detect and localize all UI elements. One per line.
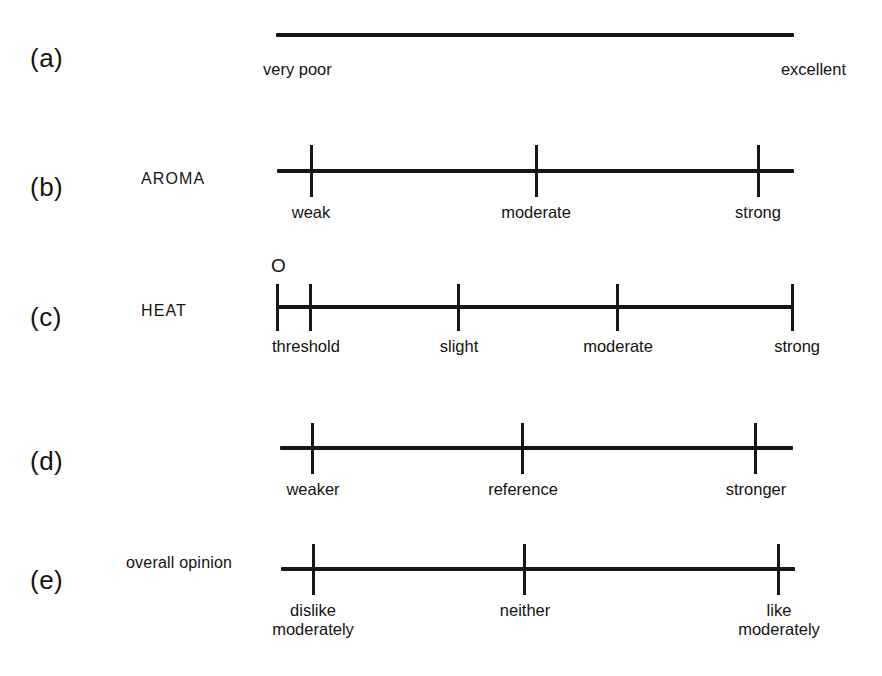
- anchor-d-reference: reference: [488, 480, 558, 499]
- anchor-d-stronger: stronger: [726, 480, 787, 499]
- anchor-b-weak: weak: [292, 203, 331, 222]
- marker-o-icon: O: [271, 256, 286, 275]
- anchor-e-like-line1: like: [767, 601, 792, 619]
- anchor-e-dislike-moderately: dislike moderately: [272, 601, 354, 639]
- anchor-e-neither: neither: [500, 601, 550, 620]
- tick-c-strong: [791, 284, 794, 331]
- tick-b-weak: [310, 145, 313, 197]
- scale-row-a: (a) very poor excellent: [0, 0, 882, 110]
- attribute-label-heat: HEAT: [141, 302, 187, 320]
- anchor-c-slight: slight: [440, 337, 479, 356]
- anchor-e-like-moderately: like moderately: [738, 601, 820, 639]
- anchor-a-excellent: excellent: [781, 60, 846, 79]
- attribute-label-overall-opinion: overall opinion: [126, 554, 232, 572]
- panel-letter-c: (c): [30, 302, 62, 333]
- scale-line-c: [277, 305, 793, 309]
- anchor-b-strong: strong: [735, 203, 781, 222]
- panel-letter-b: (b): [30, 172, 63, 203]
- tick-d-weaker: [311, 423, 314, 474]
- scale-row-d: (d) weaker reference stronger: [0, 390, 882, 510]
- tick-e-like-moderately: [777, 544, 780, 595]
- tick-e-dislike-moderately: [312, 544, 315, 595]
- tick-e-neither: [523, 544, 526, 595]
- tick-c-moderate: [616, 284, 619, 331]
- tick-c-endpoint-left: [276, 284, 279, 331]
- anchor-c-moderate: moderate: [583, 337, 653, 356]
- anchor-c-threshold: threshold: [272, 337, 340, 356]
- anchor-e-like-line2: moderately: [738, 620, 820, 639]
- tick-d-reference: [521, 423, 524, 474]
- tick-b-strong: [757, 145, 760, 197]
- anchor-d-weaker: weaker: [286, 480, 339, 499]
- tick-c-threshold: [309, 284, 312, 331]
- scale-line-a: [276, 33, 794, 37]
- scale-row-c: (c) HEAT O threshold slight moderate str…: [0, 240, 882, 390]
- tick-b-moderate: [535, 145, 538, 197]
- scale-figure: (a) very poor excellent (b) AROMA weak m…: [0, 0, 882, 676]
- anchor-e-dislike-line1: dislike: [290, 601, 336, 619]
- anchor-b-moderate: moderate: [501, 203, 571, 222]
- scale-line-e: [281, 567, 795, 571]
- anchor-e-dislike-line2: moderately: [272, 620, 354, 639]
- anchor-a-very-poor: very poor: [263, 60, 332, 79]
- tick-c-slight: [457, 284, 460, 331]
- scale-line-d: [280, 446, 793, 450]
- scale-row-e: (e) overall opinion dislike moderately n…: [0, 510, 882, 676]
- anchor-c-strong: strong: [774, 337, 820, 356]
- panel-letter-e: (e): [30, 565, 63, 596]
- panel-letter-d: (d): [30, 446, 63, 477]
- panel-letter-a: (a): [30, 43, 63, 74]
- attribute-label-aroma: AROMA: [141, 170, 205, 188]
- tick-d-stronger: [754, 423, 757, 474]
- scale-row-b: (b) AROMA weak moderate strong: [0, 110, 882, 240]
